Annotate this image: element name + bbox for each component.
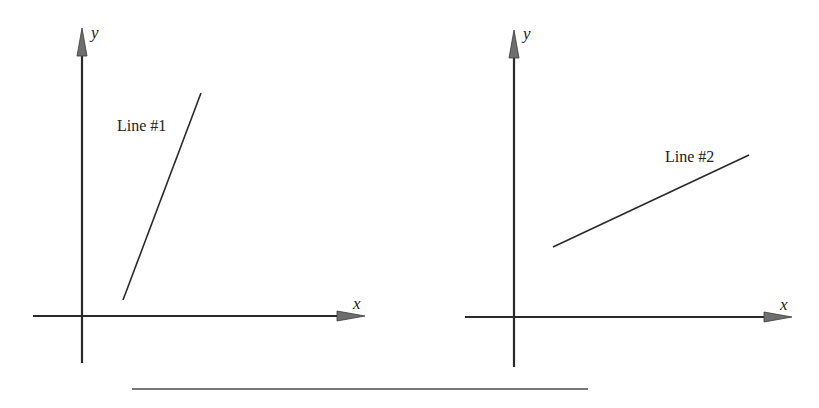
left-panel: y x Line #1 <box>33 23 365 363</box>
left-x-axis-label: x <box>352 294 361 313</box>
line-2 <box>553 155 749 247</box>
left-y-axis-label: y <box>89 23 99 42</box>
right-panel: y x Line #2 <box>465 24 792 367</box>
line-1-label: Line #1 <box>117 117 166 134</box>
left-x-axis-arrow-icon <box>337 311 365 321</box>
left-y-axis-arrow-icon <box>77 28 87 56</box>
right-x-axis-label: x <box>779 295 788 314</box>
right-x-axis-arrow-icon <box>764 312 792 322</box>
diagram-canvas: y x Line #1 y x Line #2 <box>0 0 819 408</box>
line-2-label: Line #2 <box>665 148 714 165</box>
right-y-axis-label: y <box>521 24 531 43</box>
right-y-axis-arrow-icon <box>509 30 519 58</box>
